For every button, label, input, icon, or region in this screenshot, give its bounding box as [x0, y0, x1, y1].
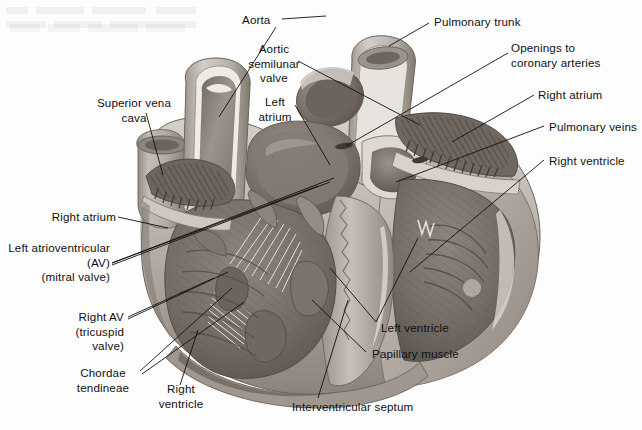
label-interventricular-septum: Interventricular septum	[292, 400, 413, 415]
label-pulmonary-trunk: Pulmonary trunk	[434, 15, 521, 30]
heart-anatomy-figure: Aorta Aortic semilunar valve Left atrium…	[0, 0, 642, 430]
label-right-av-tricuspid-valve: Right AV (tricuspid valve)	[28, 310, 124, 354]
label-right-atrium-left: Right atrium	[18, 210, 116, 225]
label-right-atrium-right: Right atrium	[538, 88, 602, 103]
label-right-ventricle-bottom: Right ventricle	[152, 382, 210, 411]
label-aorta: Aorta	[242, 13, 270, 28]
label-pulmonary-veins: Pulmonary veins	[549, 120, 637, 135]
label-chordae-tendineae: Chordae tendineae	[70, 366, 136, 395]
label-left-ventricle: Left ventricle	[381, 321, 449, 336]
label-superior-vena-cava: Superior vena cava	[88, 96, 180, 125]
label-papillary-muscle: Papillary muscle	[372, 347, 459, 362]
label-right-ventricle-right: Right ventricle	[549, 154, 625, 169]
label-left-atrioventricular-mitral-valve: Left atrioventricular (AV) (mitral valve…	[4, 241, 110, 285]
label-aortic-semilunar-valve: Aortic semilunar valve	[243, 42, 305, 86]
label-left-atrium: Left atrium	[252, 95, 298, 124]
label-openings-to-coronary-arteries: Openings to coronary arteries	[511, 41, 601, 70]
papillary-muscle-3	[291, 261, 328, 316]
